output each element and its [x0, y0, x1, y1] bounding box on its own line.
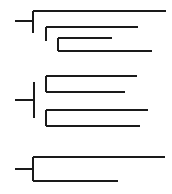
cladogram-figure — [0, 0, 172, 194]
figure-background — [0, 0, 172, 194]
cladogram-canvas — [0, 0, 172, 194]
